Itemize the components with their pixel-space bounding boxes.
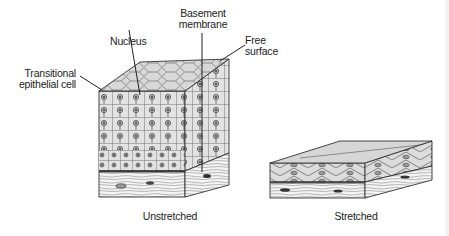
label-line: surface [245, 46, 278, 57]
caption-stretched: Stretched [316, 211, 396, 222]
stretched-block [270, 141, 432, 198]
unstretched-block [99, 59, 229, 197]
epithelium-figure [0, 0, 449, 236]
caption-unstretched: Unstretched [130, 211, 210, 222]
label-basement-membrane: Basement membrane [172, 8, 234, 30]
label-free-surface: Free surface [245, 35, 278, 57]
label-transitional-cell: Transitional epithelial cell [0, 68, 76, 90]
leader-transitional-cell [80, 76, 102, 90]
label-line: epithelial cell [0, 79, 76, 90]
label-nucleus: Nucleus [110, 36, 147, 47]
label-line: membrane [172, 19, 234, 30]
leader-free-surface [220, 45, 245, 61]
